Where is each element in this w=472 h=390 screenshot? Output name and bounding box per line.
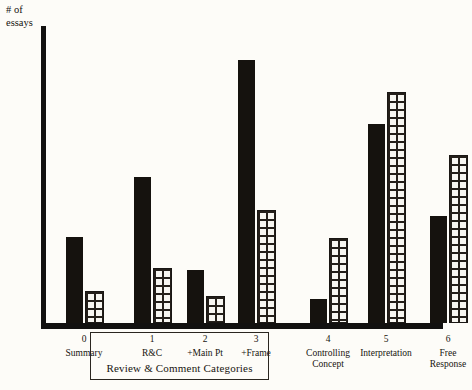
bar-group-6 bbox=[430, 26, 470, 323]
review-comment-group-caption: Review & Comment Categories bbox=[90, 362, 269, 374]
bar-5-solid bbox=[368, 124, 385, 323]
x-label-6: 6FreeResponse bbox=[410, 334, 472, 371]
bar-group-2 bbox=[187, 26, 227, 323]
bar-0-solid bbox=[66, 237, 83, 323]
x-axis-line bbox=[41, 323, 443, 329]
x-label-name2-6: Response bbox=[410, 359, 472, 371]
bar-group-1 bbox=[134, 26, 174, 323]
x-label-name-6: Free bbox=[410, 348, 472, 360]
bar-groups bbox=[46, 26, 441, 323]
bar-group-5 bbox=[368, 26, 408, 323]
bar-1-hatched bbox=[153, 268, 172, 323]
plot-area: 12345678910 bbox=[41, 26, 441, 329]
bar-group-4 bbox=[310, 26, 350, 323]
y-axis-title-line1: # of bbox=[6, 4, 23, 15]
y-axis-title-line2: essays bbox=[6, 17, 33, 28]
bar-group-3 bbox=[238, 26, 278, 323]
bar-6-hatched bbox=[449, 155, 468, 323]
bar-3-hatched bbox=[257, 210, 276, 323]
x-label-num-6: 6 bbox=[410, 334, 472, 346]
bar-group-0 bbox=[66, 26, 106, 323]
bar-3-solid bbox=[238, 60, 255, 323]
y-axis-title: # of essays bbox=[6, 4, 33, 29]
bar-2-hatched bbox=[206, 296, 225, 323]
bar-2-solid bbox=[187, 270, 204, 323]
bar-0-hatched bbox=[85, 291, 104, 323]
bar-5-hatched bbox=[387, 92, 406, 323]
bar-4-hatched bbox=[329, 238, 348, 323]
bar-4-solid bbox=[310, 299, 327, 323]
x-label-name2-4: Concept bbox=[290, 359, 366, 371]
bar-1-solid bbox=[134, 177, 151, 323]
bar-6-solid bbox=[430, 216, 447, 323]
